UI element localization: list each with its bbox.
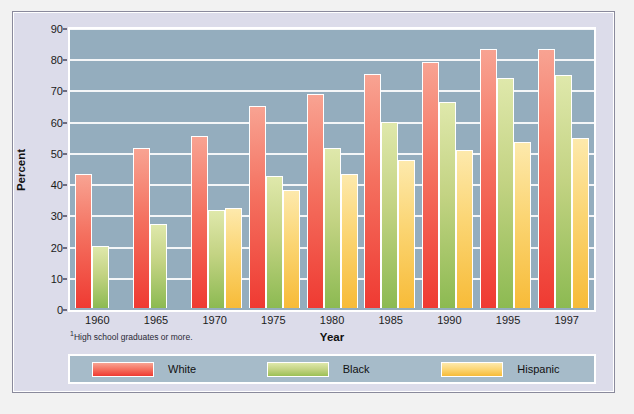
- legend-item-hispanic[interactable]: Hispanic: [419, 362, 594, 377]
- bar-group-1985: [361, 31, 419, 308]
- bar-white-1995[interactable]: [480, 49, 497, 308]
- x-axis-tick-1990: 1990: [420, 314, 479, 330]
- bar-group-1997: [534, 31, 592, 308]
- footnote-text: High school graduates or more.: [74, 332, 193, 342]
- legend-label-black: Black: [343, 363, 370, 375]
- bar-hispanic-1990[interactable]: [456, 150, 473, 308]
- bar-black-1997[interactable]: [555, 75, 572, 308]
- legend-item-black[interactable]: Black: [245, 362, 420, 377]
- x-axis-tick-labels: 196019651970197519801985199019951997: [68, 314, 596, 330]
- x-axis-tick-1975: 1975: [244, 314, 303, 330]
- bar-white-1985[interactable]: [364, 74, 381, 308]
- bar-group-1975: [245, 31, 303, 308]
- y-axis-tick-20: 20: [23, 242, 63, 254]
- plot-area: [68, 27, 596, 312]
- bar-black-1980[interactable]: [324, 148, 341, 308]
- bar-hispanic-1985[interactable]: [398, 160, 415, 308]
- y-axis-tickmark: [63, 28, 67, 30]
- bar-hispanic-1970[interactable]: [225, 208, 242, 308]
- x-axis-tick-1980: 1980: [303, 314, 362, 330]
- legend-swatch-white: [92, 362, 154, 377]
- y-axis-tick-90: 90: [23, 23, 63, 35]
- bar-group-1970: [188, 31, 246, 308]
- y-axis-tick-30: 30: [23, 210, 63, 222]
- bar-group-1960: [72, 31, 130, 308]
- footnote: 1High school graduates or more.: [70, 330, 193, 342]
- x-axis-tick-1965: 1965: [127, 314, 186, 330]
- gridline: [70, 28, 594, 30]
- x-axis-tick-1960: 1960: [68, 314, 127, 330]
- bar-white-1990[interactable]: [422, 62, 439, 308]
- legend-item-white[interactable]: White: [70, 362, 245, 377]
- bar-white-1997[interactable]: [538, 49, 555, 308]
- y-axis-tick-80: 80: [23, 54, 63, 66]
- bar-group-1995: [476, 31, 534, 308]
- y-axis-tickmark: [63, 122, 67, 124]
- bar-black-1990[interactable]: [439, 102, 456, 308]
- bar-hispanic-1997[interactable]: [572, 138, 589, 308]
- bar-group-1980: [303, 31, 361, 308]
- bar-black-1985[interactable]: [381, 122, 398, 308]
- y-axis-tickmark: [63, 278, 67, 280]
- y-axis-tickmark: [63, 215, 67, 217]
- y-axis-tickmark: [63, 309, 67, 311]
- bar-black-1965[interactable]: [150, 224, 167, 308]
- y-axis-tick-70: 70: [23, 85, 63, 97]
- bar-white-1965[interactable]: [133, 148, 150, 308]
- y-axis-tick-50: 50: [23, 148, 63, 160]
- y-axis-tickmark: [63, 153, 67, 155]
- bar-white-1975[interactable]: [249, 106, 266, 308]
- y-axis-tickmark: [63, 247, 67, 249]
- bar-black-1970[interactable]: [208, 210, 225, 308]
- chart-figure: Percent 0102030405060708090 196019651970…: [12, 11, 615, 393]
- x-axis-tick-1970: 1970: [185, 314, 244, 330]
- bar-group-1990: [419, 31, 477, 308]
- bar-black-1995[interactable]: [497, 78, 514, 308]
- y-axis-tick-60: 60: [23, 117, 63, 129]
- bar-white-1960[interactable]: [75, 174, 92, 308]
- bar-black-1960[interactable]: [92, 246, 109, 308]
- legend-label-hispanic: Hispanic: [517, 363, 559, 375]
- bar-groups: [72, 31, 592, 308]
- y-axis-tick-0: 0: [23, 304, 63, 316]
- plot-wrapper: Percent 0102030405060708090: [68, 27, 596, 312]
- x-axis-tick-1997: 1997: [537, 314, 596, 330]
- legend-swatch-black: [267, 362, 329, 377]
- bar-hispanic-1975[interactable]: [283, 190, 300, 308]
- y-axis-tickmark: [63, 59, 67, 61]
- bar-group-1965: [130, 31, 188, 308]
- legend-label-white: White: [168, 363, 196, 375]
- bar-hispanic-1980[interactable]: [341, 174, 358, 308]
- bar-hispanic-1995[interactable]: [514, 142, 531, 308]
- bar-white-1980[interactable]: [307, 94, 324, 308]
- y-axis-tick-40: 40: [23, 179, 63, 191]
- x-axis-tick-1995: 1995: [479, 314, 538, 330]
- y-axis-tickmark: [63, 90, 67, 92]
- bar-white-1970[interactable]: [191, 136, 208, 308]
- legend-swatch-hispanic: [441, 362, 503, 377]
- y-axis-tickmark: [63, 184, 67, 186]
- x-axis-tick-1985: 1985: [361, 314, 420, 330]
- y-axis-tick-10: 10: [23, 273, 63, 285]
- bar-black-1975[interactable]: [266, 176, 283, 308]
- chart-legend: WhiteBlackHispanic: [68, 354, 596, 384]
